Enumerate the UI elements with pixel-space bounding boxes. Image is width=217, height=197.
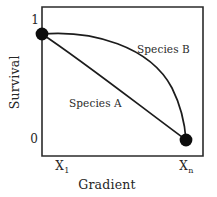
y-axis-title: Survival	[9, 51, 22, 113]
x-tick-label-left: X1	[45, 160, 79, 172]
curve-label-species-a: Species A	[69, 98, 122, 109]
x-tick-label-right: Xn	[169, 160, 203, 172]
curve-label-species-b: Species B	[137, 44, 190, 55]
y-tick-label-bottom: 0	[26, 133, 38, 145]
marker-end-point	[180, 134, 193, 147]
x-tick-left-subscript: 1	[64, 166, 69, 175]
x-axis-title: Gradient	[62, 179, 152, 192]
figure-container: 1 0 X1 Xn Survival Gradient Species B Sp…	[0, 0, 217, 197]
y-tick-label-top: 1	[27, 14, 39, 26]
x-tick-right-base: X	[179, 159, 188, 173]
marker-start-point	[36, 28, 49, 41]
x-tick-right-subscript: n	[188, 166, 193, 175]
x-tick-left-base: X	[55, 159, 64, 173]
